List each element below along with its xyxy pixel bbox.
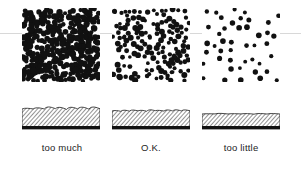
caption-ok: O.K.	[112, 142, 190, 153]
cross-section-panel-ok	[112, 103, 190, 130]
cross-section-drawing-too-little	[202, 103, 280, 130]
speckle-dots-ok	[112, 8, 190, 82]
cross-section-drawing-ok	[112, 103, 190, 130]
speckle-panel-ok	[112, 8, 190, 82]
substrate-bar-too-much	[22, 126, 100, 129]
cross-section-panel-too-much	[22, 103, 100, 130]
cross-section-drawing-too-much	[22, 103, 100, 130]
substrate-bar-ok	[112, 126, 190, 129]
speckle-panel-too-much	[22, 8, 100, 82]
caption-too-much: too much	[23, 142, 101, 153]
speckle-dots-too-little	[202, 8, 280, 82]
caption-too-little: too little	[202, 142, 280, 153]
coating-layer-too-much	[22, 107, 100, 129]
speckle-panel-too-little	[202, 8, 280, 82]
cross-section-panel-too-little	[202, 103, 280, 130]
substrate-bar-too-little	[202, 126, 280, 129]
speckle-density-comparison-figure: too muchO.K.too little	[0, 0, 301, 170]
speckle-dots-too-much	[22, 8, 100, 82]
